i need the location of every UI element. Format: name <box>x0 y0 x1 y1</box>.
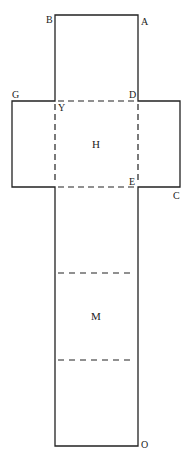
vertex-label-o: O <box>141 439 148 450</box>
vertex-label-g: G <box>12 89 19 100</box>
face-label-m: M <box>91 310 101 322</box>
box-net-diagram: B A G Y D E C O H M <box>0 0 189 452</box>
face-label-h: H <box>92 138 100 150</box>
vertex-label-c: C <box>173 190 180 201</box>
vertex-label-b: B <box>46 14 53 25</box>
vertex-label-d: D <box>129 89 136 100</box>
net-outline <box>12 15 180 446</box>
vertex-label-y: Y <box>58 102 65 113</box>
vertex-label-e: E <box>129 176 135 187</box>
vertex-label-a: A <box>141 16 149 27</box>
